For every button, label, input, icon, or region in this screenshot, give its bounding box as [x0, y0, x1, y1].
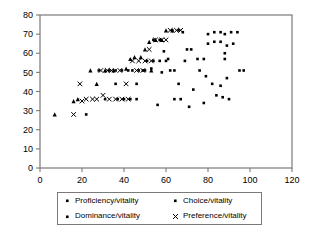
legend-marker-square-icon	[63, 212, 72, 221]
data-point	[196, 58, 199, 61]
data-point	[71, 112, 76, 117]
svg-text:60: 60	[161, 175, 171, 185]
legend-label-choice: Choice/vitality	[183, 197, 232, 205]
chart-legend: Proficiency/vitality Choice/vitality Dom…	[57, 192, 262, 225]
svg-text:40: 40	[23, 87, 33, 97]
svg-text:20: 20	[23, 125, 33, 135]
data-point	[124, 82, 129, 87]
data-point	[184, 60, 187, 63]
data-point	[94, 97, 99, 102]
data-point	[163, 50, 166, 53]
data-point	[215, 94, 218, 97]
data-point	[95, 82, 99, 86]
data-point	[192, 88, 195, 91]
series-0	[85, 31, 245, 116]
data-point	[164, 28, 168, 32]
data-point	[226, 44, 229, 47]
legend-item-dominance: Dominance/vitality	[58, 212, 166, 221]
svg-text:20: 20	[77, 175, 87, 185]
data-point	[167, 58, 170, 61]
data-point	[224, 52, 227, 55]
data-point	[88, 68, 92, 72]
legend-label-preference: Preference/vitality	[183, 212, 247, 220]
svg-text:0: 0	[28, 163, 33, 173]
data-points-layer	[53, 28, 245, 117]
data-point	[198, 69, 201, 72]
svg-text:80: 80	[23, 10, 33, 20]
data-point	[213, 31, 216, 34]
data-point	[147, 40, 151, 44]
data-point	[211, 83, 214, 86]
legend-item-preference: Preference/vitality	[166, 212, 263, 221]
scatter-chart: 01020304050607080020406080100120 Profici…	[0, 0, 317, 235]
legend-marker-square-icon	[63, 196, 72, 205]
svg-text:50: 50	[23, 68, 33, 78]
data-point	[107, 97, 112, 102]
data-point	[188, 106, 191, 109]
data-point	[213, 40, 216, 43]
svg-text:0: 0	[37, 175, 42, 185]
data-point	[207, 33, 210, 36]
data-point	[156, 104, 159, 107]
svg-text:40: 40	[119, 175, 129, 185]
data-point	[221, 96, 224, 99]
data-point	[114, 83, 117, 86]
data-point	[173, 98, 176, 101]
data-point	[114, 69, 117, 72]
data-point	[226, 77, 229, 80]
data-point	[85, 113, 88, 116]
series-3	[71, 28, 183, 117]
data-point	[158, 60, 161, 63]
data-point	[179, 98, 182, 101]
data-point	[135, 83, 138, 86]
legend-label-dominance: Dominance/vitality	[75, 212, 140, 220]
series-2	[98, 29, 189, 85]
svg-text:60: 60	[23, 48, 33, 58]
data-point	[219, 40, 222, 43]
data-point	[236, 31, 239, 34]
svg-text:120: 120	[284, 175, 299, 185]
data-point	[177, 83, 180, 86]
data-point	[104, 98, 107, 101]
svg-text:80: 80	[203, 175, 213, 185]
data-point	[186, 48, 189, 51]
data-point	[228, 98, 231, 101]
legend-marker-square-icon	[171, 196, 180, 205]
data-point	[203, 102, 206, 105]
data-point	[173, 69, 176, 72]
data-point	[72, 99, 76, 103]
data-point	[78, 82, 83, 87]
legend-item-choice: Choice/vitality	[166, 196, 263, 205]
data-point	[203, 58, 206, 61]
data-point	[135, 98, 138, 101]
data-point	[224, 58, 227, 61]
data-point	[230, 31, 233, 34]
data-point	[101, 93, 106, 98]
data-point	[242, 69, 245, 72]
svg-text:30: 30	[23, 106, 33, 116]
svg-text:10: 10	[23, 144, 33, 154]
data-point	[76, 97, 80, 101]
data-point	[207, 42, 210, 45]
data-point	[190, 48, 193, 51]
data-point	[164, 38, 169, 43]
data-point	[169, 69, 172, 72]
data-point	[147, 47, 152, 52]
data-point	[205, 75, 208, 78]
data-point	[238, 69, 241, 72]
data-point	[161, 71, 164, 74]
legend-item-proficiency: Proficiency/vitality	[58, 196, 166, 205]
data-point	[232, 42, 235, 45]
data-point	[90, 97, 95, 102]
data-point	[143, 47, 147, 51]
svg-text:70: 70	[23, 29, 33, 39]
legend-marker-x-icon	[171, 212, 180, 221]
svg-text:100: 100	[242, 175, 257, 185]
data-point	[127, 69, 130, 72]
data-point	[53, 112, 57, 116]
tick-label-layer: 01020304050607080020406080100120	[23, 10, 300, 185]
legend-label-proficiency: Proficiency/vitality	[75, 197, 139, 205]
data-point	[131, 69, 134, 72]
data-point	[136, 59, 141, 64]
data-point	[219, 31, 222, 34]
